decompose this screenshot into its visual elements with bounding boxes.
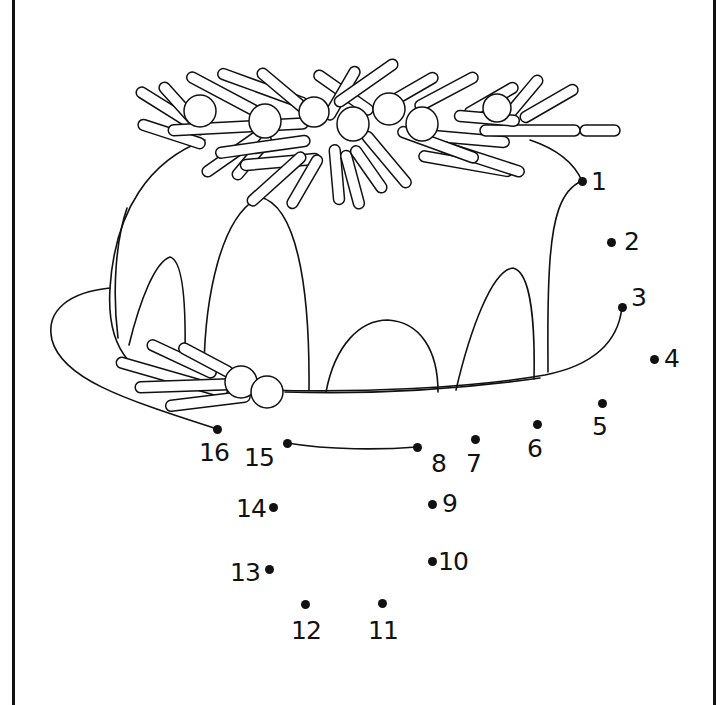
dot-label: 1 (591, 169, 606, 194)
dot-12 (301, 600, 310, 609)
dot-label: 6 (527, 436, 542, 461)
dot-label: 7 (466, 451, 481, 476)
front-sprig (115, 338, 283, 412)
dot-3 (618, 303, 627, 312)
cake-illustration (0, 0, 727, 705)
dot-label: 2 (624, 229, 639, 254)
plate-front-edge (268, 307, 622, 391)
dot-15 (283, 439, 292, 448)
cake-arch-right (456, 268, 534, 390)
dot-label: 5 (592, 414, 607, 439)
dot-9 (428, 500, 437, 509)
dot-label: 12 (291, 618, 321, 643)
dot-label: 15 (244, 445, 274, 470)
dot-label: 3 (631, 285, 646, 310)
connector-15-8 (287, 443, 417, 449)
cake-arch-left (129, 257, 185, 355)
dot-8 (413, 443, 422, 452)
dot-14 (269, 503, 278, 512)
dot-16 (213, 425, 222, 434)
dot-1 (578, 177, 587, 186)
dot-2 (607, 238, 616, 247)
cake-outline-right (530, 140, 582, 372)
dot-5 (598, 399, 607, 408)
dot-label: 10 (438, 549, 468, 574)
wreath (134, 57, 620, 211)
dot-10 (428, 557, 437, 566)
dot-4 (650, 355, 659, 364)
dot-label: 11 (368, 618, 398, 643)
cake-arch-left-sliver (115, 208, 127, 338)
dot-label: 13 (230, 560, 260, 585)
dot-label: 16 (199, 440, 229, 465)
dot-label: 4 (664, 346, 679, 371)
dot-11 (378, 599, 387, 608)
cake-outline-left (110, 140, 205, 360)
dot-7 (471, 435, 480, 444)
dot-label: 8 (431, 451, 446, 476)
worksheet-page: 12345678910111213141516 (0, 0, 727, 705)
cake-arch-center (326, 320, 438, 392)
dot-13 (265, 565, 274, 574)
dot-label: 14 (236, 496, 266, 521)
dot-label: 9 (442, 491, 457, 516)
dot-6 (533, 420, 542, 429)
